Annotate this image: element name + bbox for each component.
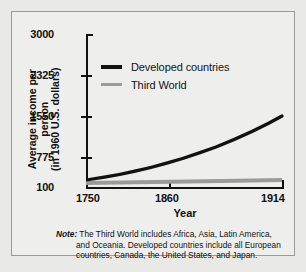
legend-item-third-world: Third World bbox=[101, 77, 229, 92]
x-tick-label-1750: 1750 bbox=[76, 192, 100, 204]
chart-legend: Developed countries Third World bbox=[101, 59, 229, 95]
x-axis-title: Year bbox=[86, 207, 284, 219]
y-tick-label-775: 775 bbox=[12, 152, 54, 163]
x-tick-label-1860: 1860 bbox=[155, 192, 179, 204]
note-line-3: countries, Canada, the United States, an… bbox=[56, 250, 278, 261]
series-line-third-world bbox=[86, 180, 282, 183]
legend-swatch-third-world bbox=[101, 83, 122, 86]
legend-label-third-world: Third World bbox=[131, 79, 187, 91]
series-plot-area bbox=[86, 34, 284, 189]
y-tick-label-3000: 3000 bbox=[12, 29, 54, 40]
y-tick-label-100: 100 bbox=[12, 182, 54, 193]
note-label: Note: bbox=[56, 229, 77, 239]
note-line-1: Note: The Third World includes Africa, A… bbox=[56, 229, 278, 240]
x-tick-label-1914: 1914 bbox=[261, 192, 285, 204]
legend-swatch-developed-countries bbox=[101, 65, 122, 69]
y-tick-label-2325: 2325 bbox=[12, 70, 54, 81]
note-line-2: and Oceania. Developed countries include… bbox=[56, 240, 278, 251]
series-line-developed bbox=[86, 116, 282, 180]
y-tick-label-1550: 1550 bbox=[12, 111, 54, 122]
chart-panel: Average income per person (in 1960 U.S. … bbox=[11, 11, 295, 256]
chart-figure: Average income per person (in 1960 U.S. … bbox=[0, 0, 306, 272]
legend-label-developed-countries: Developed countries bbox=[131, 61, 229, 73]
legend-item-developed-countries: Developed countries bbox=[101, 59, 229, 74]
chart-note: Note: The Third World includes Africa, A… bbox=[56, 229, 278, 261]
note-text-1: The Third World includes Africa, Asia, L… bbox=[79, 229, 271, 239]
